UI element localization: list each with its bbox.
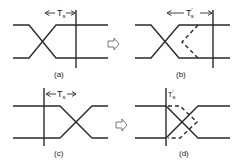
- ts-prime-label-d: T's: [168, 89, 175, 100]
- timing-diagram: Ts (a) T's (b) Ts (c) T's (d): [0, 0, 243, 163]
- caption-b: (b): [176, 70, 186, 79]
- hollow-right-arrow-icon: [108, 38, 119, 50]
- caption-a: (a): [54, 70, 64, 79]
- panel-b: [135, 10, 230, 68]
- panel-d: [135, 88, 230, 146]
- upper-signal: [13, 25, 108, 58]
- hollow-right-arrow-icon: [116, 119, 127, 131]
- panel-a: [13, 10, 108, 68]
- dashed-shifted-signal: [182, 25, 198, 58]
- lower-signal: [13, 25, 108, 58]
- ts-label-c: Ts: [57, 89, 66, 100]
- caption-d: (d): [179, 149, 189, 158]
- ts-label-a: Ts: [57, 8, 66, 19]
- ts-prime-label-b: T's: [186, 7, 194, 19]
- caption-c: (c): [54, 149, 64, 158]
- upper-signal: [13, 106, 108, 138]
- lower-signal: [135, 106, 230, 138]
- lower-signal: [13, 106, 108, 138]
